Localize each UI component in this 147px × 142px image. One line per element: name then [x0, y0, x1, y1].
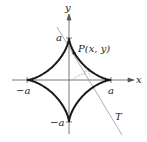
a-right-label: a	[108, 86, 114, 96]
y-axis-arrow-icon	[67, 14, 71, 20]
tangent-label: T	[115, 112, 122, 122]
a-left-label: −a	[16, 86, 30, 96]
point-label: P(x, y)	[78, 44, 110, 54]
x-axis-label: x	[136, 75, 142, 85]
point-p	[72, 51, 75, 54]
angle-marks	[73, 70, 90, 80]
y-axis-label: y	[65, 3, 71, 13]
x-axis-arrow-icon	[128, 78, 134, 82]
astroid-diagram	[0, 0, 147, 142]
a-bottom-label: −a	[50, 118, 64, 128]
a-top-label: a	[56, 33, 62, 43]
